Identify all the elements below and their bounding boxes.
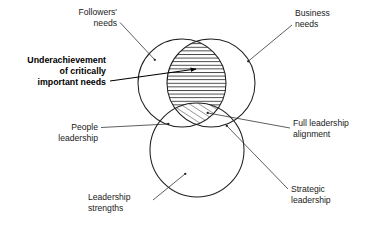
region-full-leadership-alignment-fill xyxy=(130,80,270,190)
label-business-needs-line2: needs xyxy=(295,19,318,29)
leader-dot-strategic-leadership xyxy=(226,125,228,127)
label-underachievement-line3: important needs xyxy=(38,77,107,87)
leader-dot-business-needs xyxy=(247,60,249,62)
label-followers-needs-line1: Followers' xyxy=(79,7,118,17)
label-underachievement-line1: Underachievement xyxy=(27,55,106,65)
leader-dot-leadership-strengths xyxy=(184,173,186,175)
venn-diagram: Followers' needs Business needs Underach… xyxy=(0,0,386,228)
label-leadership-strengths-line1: Leadership xyxy=(88,192,131,202)
diagram-canvas: Followers' needs Business needs Underach… xyxy=(0,0,386,228)
label-business-needs-line1: Business xyxy=(295,8,330,18)
leader-dot-people-leadership xyxy=(167,123,169,125)
label-followers-needs-line2: needs xyxy=(94,18,117,28)
label-people-leadership-line2: leadership xyxy=(58,133,98,143)
leader-dot-followers-needs xyxy=(154,59,156,61)
label-underachievement-line2: of critically xyxy=(60,66,107,76)
label-people-leadership-line1: People xyxy=(71,122,98,132)
label-full-leadership-alignment-line2: alignment xyxy=(293,129,331,139)
leader-dot-full-leadership-alignment xyxy=(207,112,209,114)
label-strategic-leadership-line2: leadership xyxy=(291,195,331,205)
label-leadership-strengths-line2: strengths xyxy=(88,203,123,213)
label-strategic-leadership-line1: Strategic xyxy=(291,184,326,194)
label-full-leadership-alignment-line1: Full leadership xyxy=(293,118,349,128)
shaded-regions xyxy=(130,25,270,190)
